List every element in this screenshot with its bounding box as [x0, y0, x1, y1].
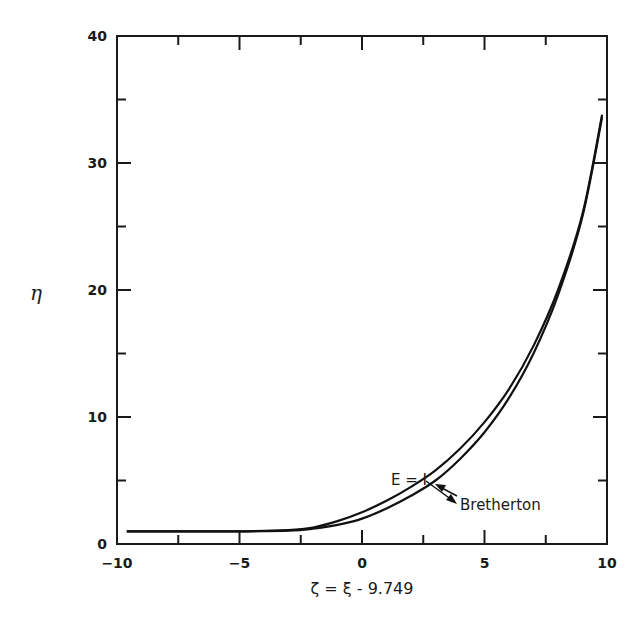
y-tick-label: 40: [88, 28, 108, 44]
y-tick-label: 20: [88, 282, 108, 298]
x-tick-label: −5: [229, 555, 250, 571]
annotations: E = I Bretherton: [391, 471, 541, 514]
x-tick-label: 5: [480, 555, 490, 571]
curve-bretherton: [127, 117, 602, 531]
x-tick-label: 10: [597, 555, 617, 571]
y-tick-labels: 010203040: [88, 28, 108, 552]
y-tick-label: 30: [88, 155, 108, 171]
x-tick-labels: −10−50510: [101, 555, 617, 571]
chart: 010203040 −10−50510 E = I Bretherton η ζ…: [0, 0, 644, 631]
x-axis-label: ζ = ξ - 9.749: [311, 579, 414, 598]
y-tick-label: 10: [88, 409, 108, 425]
x-tick-label: 0: [357, 555, 367, 571]
y-tick-label: 0: [97, 536, 107, 552]
y-axis-label: η: [30, 281, 42, 305]
axis-ticks: [117, 36, 607, 544]
x-tick-label: −10: [101, 555, 132, 571]
curve-e1: [127, 115, 602, 532]
curves: [127, 115, 602, 532]
annotation-bretherton: Bretherton: [460, 496, 541, 514]
arrow-e1-icon: [426, 481, 457, 504]
plot-frame: [117, 36, 607, 544]
annotation-e1: E = I: [391, 471, 427, 489]
